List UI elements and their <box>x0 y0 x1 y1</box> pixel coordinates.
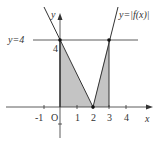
origin-label: O <box>51 112 58 123</box>
y-axis-label: y <box>50 9 56 20</box>
y-axis-arrow-icon <box>58 13 63 20</box>
y-tick-label-4: 4 <box>53 43 58 54</box>
x-tick-label-4: 4 <box>124 112 129 123</box>
point-3-4 <box>107 38 111 42</box>
x-tick-label-3: 3 <box>107 112 112 123</box>
point-2-0 <box>91 105 95 109</box>
x-tick-label-1: 1 <box>75 112 80 123</box>
x-axis-arrow-icon <box>146 105 153 110</box>
x-tick-label-neg1: -1 <box>35 112 43 123</box>
line-label: y=4 <box>7 34 24 45</box>
graph: y x y=|f(x)| y=4 4 -1 O 1 2 3 4 <box>0 0 162 144</box>
point-0-4 <box>58 38 62 42</box>
x-axis-label: x <box>144 113 150 124</box>
curve-label: y=|f(x)| <box>118 9 150 21</box>
x-tick-label-2: 2 <box>91 112 96 123</box>
